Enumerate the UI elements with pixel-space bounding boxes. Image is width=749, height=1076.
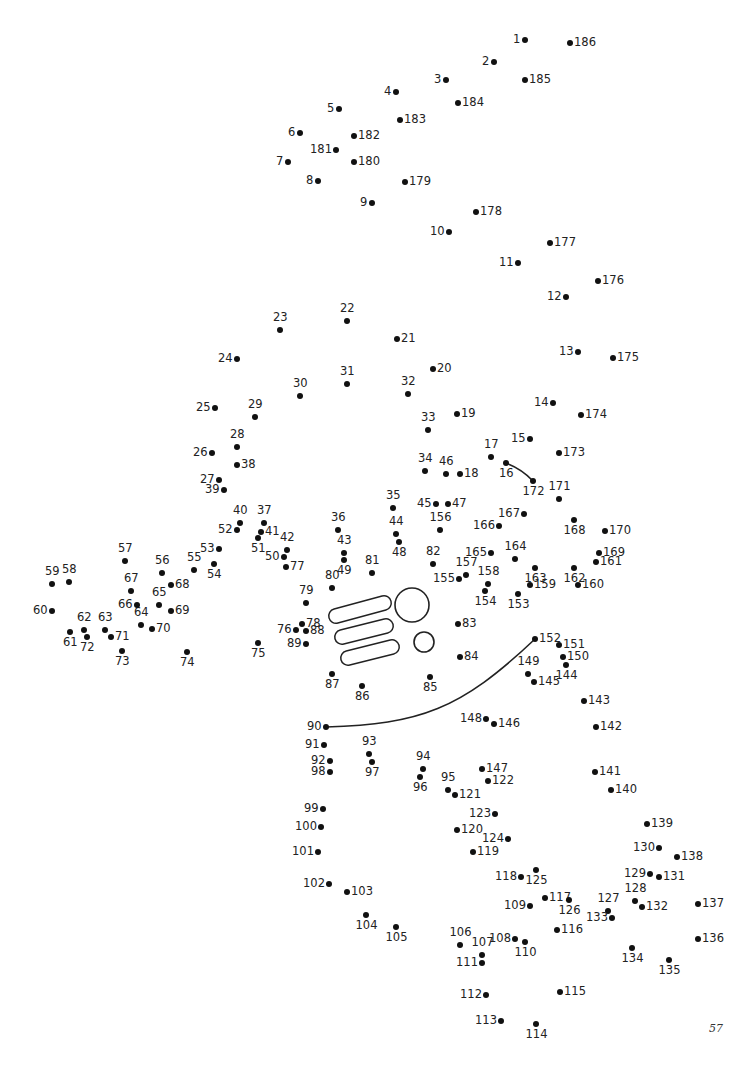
dot-129[interactable] bbox=[647, 871, 653, 877]
dot-62[interactable] bbox=[81, 627, 87, 633]
dot-173[interactable] bbox=[556, 450, 562, 456]
dot-131[interactable] bbox=[656, 874, 662, 880]
dot-24[interactable] bbox=[234, 356, 240, 362]
dot-40[interactable] bbox=[237, 520, 243, 526]
dot-179[interactable] bbox=[402, 179, 408, 185]
dot-141[interactable] bbox=[592, 769, 598, 775]
dot-15[interactable] bbox=[527, 436, 533, 442]
dot-71[interactable] bbox=[108, 634, 114, 640]
dot-139[interactable] bbox=[644, 821, 650, 827]
dot-184[interactable] bbox=[455, 100, 461, 106]
dot-164[interactable] bbox=[512, 556, 518, 562]
dot-169[interactable] bbox=[596, 550, 602, 556]
dot-123[interactable] bbox=[492, 811, 498, 817]
dot-122[interactable] bbox=[485, 778, 491, 784]
dot-30[interactable] bbox=[297, 393, 303, 399]
dot-59[interactable] bbox=[49, 581, 55, 587]
dot-133[interactable] bbox=[609, 915, 615, 921]
dot-67[interactable] bbox=[128, 588, 134, 594]
dot-34[interactable] bbox=[422, 468, 428, 474]
dot-41[interactable] bbox=[258, 529, 264, 535]
dot-33[interactable] bbox=[425, 427, 431, 433]
dot-152[interactable] bbox=[532, 636, 538, 642]
dot-11[interactable] bbox=[515, 260, 521, 266]
dot-119[interactable] bbox=[470, 849, 476, 855]
dot-112[interactable] bbox=[483, 992, 489, 998]
dot-149[interactable] bbox=[525, 671, 531, 677]
dot-140[interactable] bbox=[608, 787, 614, 793]
dot-183[interactable] bbox=[397, 117, 403, 123]
dot-17[interactable] bbox=[488, 454, 494, 460]
dot-3[interactable] bbox=[443, 77, 449, 83]
dot-31[interactable] bbox=[344, 381, 350, 387]
dot-52[interactable] bbox=[234, 527, 240, 533]
dot-155[interactable] bbox=[456, 576, 462, 582]
dot-23[interactable] bbox=[277, 327, 283, 333]
dot-81[interactable] bbox=[369, 570, 375, 576]
dot-180[interactable] bbox=[351, 159, 357, 165]
dot-185[interactable] bbox=[522, 77, 528, 83]
dot-69[interactable] bbox=[168, 608, 174, 614]
dot-143[interactable] bbox=[581, 698, 587, 704]
dot-8[interactable] bbox=[315, 178, 321, 184]
dot-77[interactable] bbox=[283, 564, 289, 570]
dot-94[interactable] bbox=[420, 766, 426, 772]
dot-82[interactable] bbox=[430, 561, 436, 567]
dot-137[interactable] bbox=[695, 901, 701, 907]
dot-130[interactable] bbox=[656, 845, 662, 851]
dot-89[interactable] bbox=[303, 641, 309, 647]
dot-12[interactable] bbox=[563, 294, 569, 300]
dot-39[interactable] bbox=[221, 487, 227, 493]
dot-161[interactable] bbox=[593, 559, 599, 565]
dot-118[interactable] bbox=[518, 874, 524, 880]
dot-117[interactable] bbox=[542, 895, 548, 901]
dot-108[interactable] bbox=[512, 936, 518, 942]
dot-107[interactable] bbox=[479, 952, 485, 958]
dot-158[interactable] bbox=[485, 581, 491, 587]
dot-21[interactable] bbox=[394, 336, 400, 342]
dot-7[interactable] bbox=[285, 159, 291, 165]
dot-156[interactable] bbox=[437, 527, 443, 533]
dot-53[interactable] bbox=[216, 546, 222, 552]
dot-177[interactable] bbox=[547, 240, 553, 246]
dot-26[interactable] bbox=[209, 450, 215, 456]
dot-60[interactable] bbox=[49, 608, 55, 614]
dot-47[interactable] bbox=[445, 501, 451, 507]
dot-5[interactable] bbox=[336, 106, 342, 112]
dot-102[interactable] bbox=[326, 881, 332, 887]
dot-142[interactable] bbox=[593, 724, 599, 730]
dot-1[interactable] bbox=[522, 37, 528, 43]
dot-29[interactable] bbox=[252, 414, 258, 420]
dot-178[interactable] bbox=[473, 209, 479, 215]
dot-145[interactable] bbox=[531, 679, 537, 685]
dot-65[interactable] bbox=[156, 602, 162, 608]
dot-157[interactable] bbox=[463, 572, 469, 578]
dot-70[interactable] bbox=[149, 626, 155, 632]
dot-175[interactable] bbox=[610, 355, 616, 361]
dot-64[interactable] bbox=[138, 622, 144, 628]
dot-42[interactable] bbox=[284, 547, 290, 553]
dot-91[interactable] bbox=[321, 742, 327, 748]
dot-132[interactable] bbox=[639, 904, 645, 910]
dot-128[interactable] bbox=[632, 898, 638, 904]
dot-121[interactable] bbox=[452, 792, 458, 798]
dot-22[interactable] bbox=[344, 318, 350, 324]
dot-124[interactable] bbox=[505, 836, 511, 842]
dot-46[interactable] bbox=[443, 471, 449, 477]
dot-93[interactable] bbox=[366, 751, 372, 757]
dot-98[interactable] bbox=[327, 769, 333, 775]
dot-84[interactable] bbox=[457, 654, 463, 660]
dot-32[interactable] bbox=[405, 391, 411, 397]
dot-147[interactable] bbox=[479, 766, 485, 772]
dot-63[interactable] bbox=[102, 627, 108, 633]
dot-99[interactable] bbox=[320, 806, 326, 812]
dot-146[interactable] bbox=[491, 721, 497, 727]
dot-10[interactable] bbox=[446, 229, 452, 235]
dot-103[interactable] bbox=[344, 889, 350, 895]
dot-9[interactable] bbox=[369, 200, 375, 206]
dot-95[interactable] bbox=[445, 787, 451, 793]
dot-38[interactable] bbox=[234, 462, 240, 468]
dot-78[interactable] bbox=[299, 621, 305, 627]
dot-170[interactable] bbox=[602, 528, 608, 534]
dot-57[interactable] bbox=[122, 558, 128, 564]
